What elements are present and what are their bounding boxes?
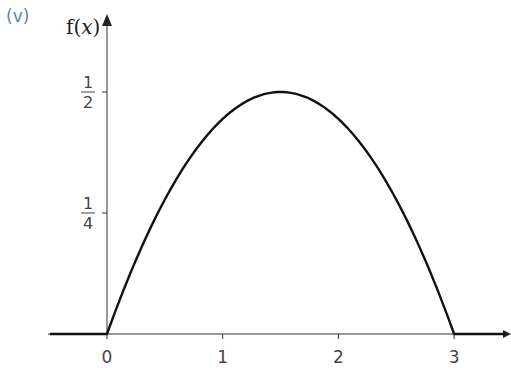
fx-f: f(: [66, 15, 81, 39]
fx-close: ): [93, 15, 101, 39]
pdf-chart: (v) f(x) 01231412: [0, 0, 511, 368]
y-tick-label: 12: [81, 73, 95, 112]
series-f-line: [50, 92, 505, 334]
y-tick-denominator: 2: [83, 93, 93, 112]
y-tick-label: 14: [81, 194, 95, 233]
x-tick-label: 3: [449, 347, 460, 367]
x-tick-label: 2: [333, 347, 344, 367]
y-tick-denominator: 4: [83, 214, 93, 233]
y-axis-label-text: f(x): [66, 15, 100, 39]
x-tick-label: 1: [217, 347, 228, 367]
part-label: (v): [6, 6, 29, 26]
fx-x: x: [81, 15, 92, 39]
y-axis-arrow-icon: [102, 14, 112, 26]
x-tick-label: 0: [102, 347, 113, 367]
y-axis-label: f(x): [66, 15, 100, 39]
y-tick-numerator: 1: [83, 73, 93, 92]
y-tick-numerator: 1: [83, 194, 93, 213]
